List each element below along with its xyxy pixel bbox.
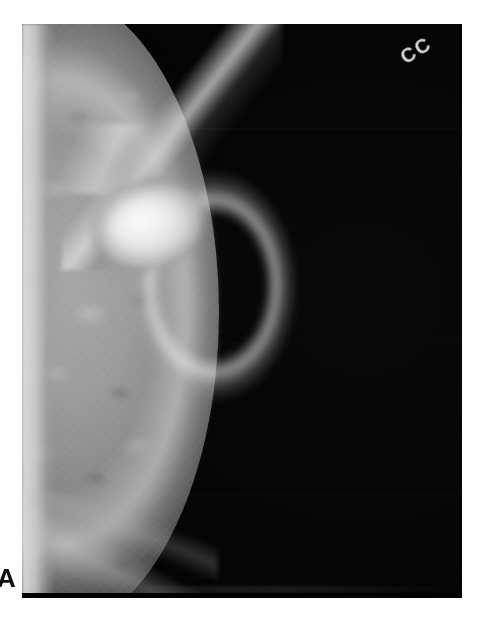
mammogram-image: CC [22, 24, 462, 598]
film-bottom-bar [22, 593, 462, 598]
figure-page: CC A [0, 0, 479, 622]
panel-letter: A [0, 565, 15, 591]
inferior-trabecular-bands [28, 494, 218, 598]
